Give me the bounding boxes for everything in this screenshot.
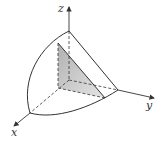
bottom-curved-edge bbox=[30, 90, 118, 115]
y-axis-label: y bbox=[145, 99, 153, 112]
x-axis-label: x bbox=[11, 126, 18, 139]
z-axis-label: z bbox=[57, 2, 64, 15]
x-axis-hidden bbox=[30, 80, 69, 113]
y-axis bbox=[118, 90, 154, 98]
x-axis bbox=[14, 113, 30, 126]
solid-diagram: z y x bbox=[0, 0, 161, 144]
